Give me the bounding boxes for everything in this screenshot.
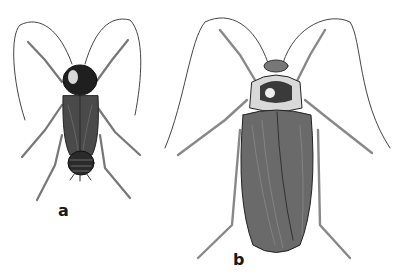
specimen-label-b: b [233, 250, 244, 269]
cockroach-a [14, 19, 141, 200]
specimen-label-a: a [58, 201, 69, 220]
illustration-drawing [0, 0, 402, 276]
cockroach-b [165, 18, 390, 258]
cockroach-illustration: a b [0, 0, 402, 276]
